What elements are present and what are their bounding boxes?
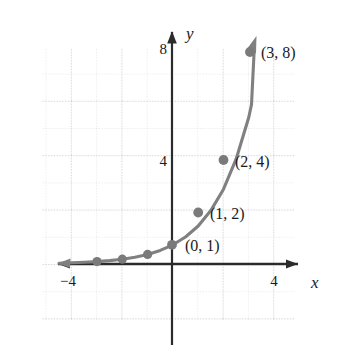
y-axis-label: y (184, 24, 194, 43)
chart-grid (42, 48, 295, 320)
plot-svg: y x 8 4 −4 4 (3, 8) (2, 4) (1, 2) (0, 1) (0, 0, 348, 355)
x-tick-label-neg4: −4 (60, 273, 76, 289)
exponential-function-graph: y x 8 4 −4 4 (3, 8) (2, 4) (1, 2) (0, 1) (0, 0, 348, 355)
point-label-3-8: (3, 8) (261, 44, 296, 62)
y-tick-label-8: 8 (160, 41, 168, 57)
x-axis-label: x (310, 273, 319, 292)
y-tick-label-4: 4 (160, 153, 168, 169)
point-label-0-1: (0, 1) (185, 237, 220, 255)
data-point-2-4 (219, 155, 229, 165)
x-tick-label-4: 4 (270, 273, 278, 289)
data-point (92, 257, 101, 266)
data-point-0-1 (167, 240, 177, 250)
data-point-3-8 (245, 47, 255, 57)
data-point-1-2 (193, 208, 203, 218)
point-label-2-4: (2, 4) (235, 153, 270, 171)
point-label-1-2: (1, 2) (210, 205, 245, 223)
data-point (118, 255, 127, 264)
data-point (143, 250, 152, 259)
